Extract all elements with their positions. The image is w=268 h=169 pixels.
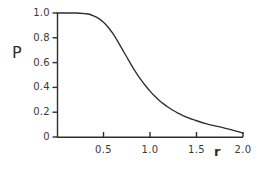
y-tick-label: 0.8 [33, 32, 50, 43]
chart-figure: P r 00.20.40.60.81.0 0.51.01.52.0 [0, 0, 268, 169]
x-tick-label: 1.5 [177, 144, 217, 155]
x-tick-label: 2.0 [223, 144, 263, 155]
y-tick-label: 0.4 [33, 81, 50, 92]
y-tick-label: 0.6 [33, 57, 50, 68]
x-tick-label: 1.0 [130, 144, 170, 155]
y-tick-label: 1.0 [33, 7, 50, 18]
axis-lines [57, 13, 243, 138]
y-tick-label: 0 [43, 131, 50, 142]
y-axis-ticks [53, 13, 58, 137]
x-axis-ticks [104, 132, 244, 137]
data-curve-line [57, 13, 243, 133]
y-tick-label: 0.2 [33, 106, 50, 117]
x-tick-label: 0.5 [84, 144, 124, 155]
y-axis-title: P [12, 43, 22, 62]
